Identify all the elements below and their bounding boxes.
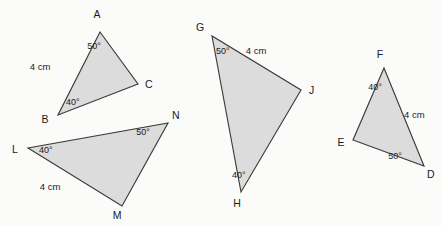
- vertex-label-c: C: [145, 78, 153, 90]
- angle-label-n-50: 50°: [136, 127, 150, 137]
- side-label-ab-4cm: 4 cm: [30, 61, 51, 72]
- geometry-figure: A B C 50° 40° 4 cm L M N 40° 50° 4 cm G …: [0, 0, 441, 227]
- triangle-ghj: G H J 50° 40° 4 cm: [196, 21, 314, 209]
- vertex-label-n: N: [172, 109, 180, 121]
- vertex-label-b: B: [41, 113, 48, 125]
- vertex-label-d: D: [427, 168, 435, 180]
- vertex-label-e: E: [337, 136, 344, 148]
- vertex-label-h: H: [233, 197, 241, 209]
- triangle-lmn: L M N 40° 50° 4 cm: [12, 109, 180, 221]
- vertex-label-m: M: [113, 209, 122, 221]
- angle-label-b-40: 40°: [66, 97, 80, 107]
- angle-label-l-40: 40°: [39, 145, 53, 155]
- diagram-page: A B C 50° 40° 4 cm L M N 40° 50° 4 cm G …: [0, 0, 441, 227]
- vertex-label-a: A: [93, 8, 100, 20]
- angle-label-h-40: 40°: [232, 170, 246, 180]
- side-label-gj-4cm: 4 cm: [246, 45, 267, 56]
- side-label-lm-4cm: 4 cm: [40, 181, 61, 192]
- vertex-label-g: G: [196, 21, 204, 33]
- vertex-label-l: L: [12, 143, 18, 155]
- angle-label-f-40: 40°: [368, 82, 382, 92]
- triangle-def: F E D 40° 50° 4 cm: [337, 48, 435, 180]
- vertex-label-f: F: [377, 48, 383, 60]
- angle-label-a-50: 50°: [87, 41, 101, 51]
- vertex-label-j: J: [309, 84, 314, 96]
- angle-label-g-50: 50°: [216, 46, 230, 56]
- side-label-fd-4cm: 4 cm: [404, 109, 425, 120]
- triangle-abc: A B C 50° 40° 4 cm: [30, 8, 153, 125]
- angle-label-d-50: 50°: [388, 151, 402, 161]
- triangle-ghj-shape: [212, 36, 301, 192]
